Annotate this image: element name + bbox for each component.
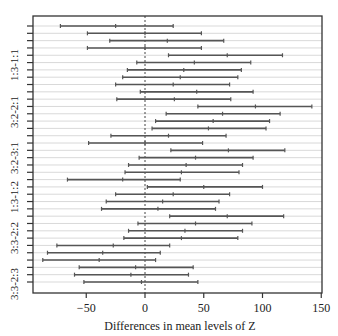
interval-row bbox=[47, 251, 160, 255]
y-tick-label: 3:2-3:1 bbox=[8, 142, 20, 174]
interval-row bbox=[102, 207, 216, 211]
interval-row bbox=[147, 185, 262, 189]
interval-row bbox=[43, 258, 156, 262]
interval-row bbox=[137, 61, 251, 65]
y-axis-labels: 1:3-1:13:2-2:13:2-3:11:3-1:23:3-2:23:3-2… bbox=[8, 49, 20, 300]
y-tick-label: 3:3-2:3 bbox=[8, 268, 20, 300]
interval-row bbox=[106, 200, 219, 204]
interval-row bbox=[129, 229, 243, 233]
interval-row bbox=[198, 104, 312, 108]
x-axis-label: Differences in mean levels of Z bbox=[104, 319, 255, 333]
interval-row bbox=[89, 141, 203, 145]
interval-row bbox=[79, 265, 193, 269]
y-tick-label: 3:2-2:1 bbox=[8, 96, 20, 128]
interval-row bbox=[127, 68, 241, 72]
interval-row bbox=[60, 24, 173, 28]
interval-row bbox=[169, 53, 283, 57]
confidence-intervals bbox=[43, 24, 312, 284]
interval-row bbox=[138, 221, 252, 225]
interval-row bbox=[171, 148, 285, 152]
interval-row bbox=[75, 273, 189, 277]
x-axis-ticks: −50050100150 bbox=[77, 293, 330, 315]
interval-row bbox=[87, 31, 201, 35]
x-tick-label: 50 bbox=[198, 301, 210, 315]
interval-row bbox=[111, 134, 226, 138]
interval-row bbox=[124, 236, 238, 240]
interval-row bbox=[116, 192, 230, 196]
interval-row bbox=[170, 214, 284, 218]
interval-row bbox=[139, 156, 253, 160]
y-tick-label: 3:3-2:2 bbox=[8, 222, 20, 254]
interval-row bbox=[152, 126, 266, 130]
x-tick-label: 100 bbox=[254, 301, 272, 315]
row-gridlines bbox=[33, 26, 322, 282]
interval-row bbox=[110, 39, 224, 43]
y-tick-label: 1:3-1:2 bbox=[8, 181, 20, 213]
x-tick-label: −50 bbox=[77, 301, 96, 315]
interval-row bbox=[117, 97, 231, 101]
interval-row bbox=[116, 83, 230, 87]
interval-row bbox=[156, 119, 270, 123]
interval-row bbox=[87, 46, 201, 50]
tukey-interval-chart: 1:3-1:13:2-2:13:2-3:11:3-1:23:3-2:23:3-2… bbox=[0, 0, 338, 336]
interval-row bbox=[123, 75, 238, 79]
interval-row bbox=[67, 178, 180, 182]
interval-row bbox=[84, 280, 198, 284]
plot-frame bbox=[33, 16, 322, 293]
x-tick-label: 0 bbox=[142, 301, 148, 315]
interval-row bbox=[140, 90, 253, 94]
interval-row bbox=[125, 170, 239, 174]
y-tick-label: 1:3-1:1 bbox=[8, 49, 20, 81]
interval-row bbox=[129, 163, 243, 167]
x-tick-label: 150 bbox=[312, 301, 330, 315]
interval-row bbox=[57, 243, 170, 247]
interval-row bbox=[166, 112, 280, 116]
y-axis-ticks bbox=[27, 26, 33, 282]
